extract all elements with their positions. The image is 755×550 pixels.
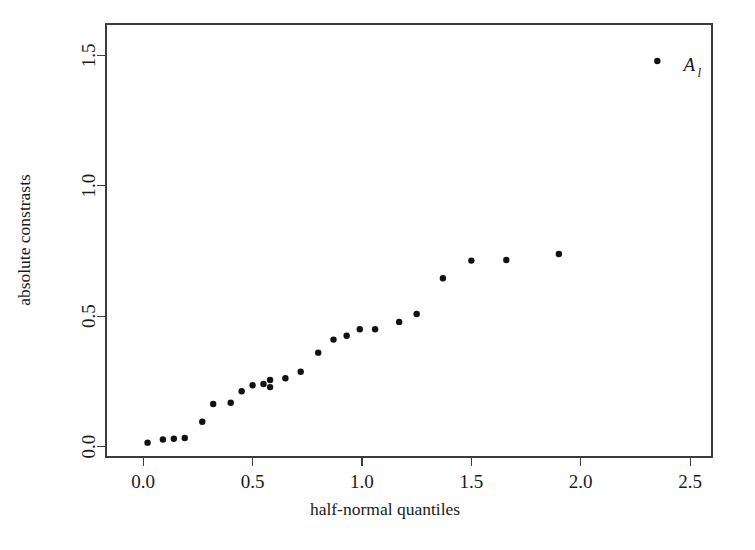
data-point — [343, 333, 349, 339]
x-tick-label: 0.0 — [131, 471, 155, 492]
plot-frame — [106, 24, 712, 457]
x-tick-label: 1.5 — [459, 471, 483, 492]
data-point — [357, 326, 363, 332]
data-point — [144, 439, 150, 445]
data-point — [160, 436, 166, 442]
data-point — [267, 384, 273, 390]
data-point — [298, 369, 304, 375]
data-point — [330, 336, 336, 342]
y-tick-label: 0.0 — [78, 435, 99, 459]
data-point — [282, 375, 288, 381]
y-axis-title: absolute constrasts — [14, 174, 34, 306]
data-point — [372, 326, 378, 332]
outlier-label-subscript: l — [698, 65, 702, 80]
x-axis-title: half-normal quantiles — [310, 499, 460, 519]
data-point — [413, 311, 419, 317]
plot-border-rect — [106, 24, 712, 457]
data-point — [238, 388, 244, 394]
x-axis-ticks: 0.00.51.01.52.02.5 — [131, 457, 702, 492]
x-tick-label: 2.0 — [569, 471, 593, 492]
data-point — [503, 257, 509, 263]
data-point — [210, 401, 216, 407]
annotation-layer: A l — [682, 54, 702, 80]
data-point — [654, 58, 660, 64]
data-point — [228, 400, 234, 406]
data-point — [468, 257, 474, 263]
data-points-layer — [144, 58, 660, 446]
outlier-label-a: A — [682, 54, 696, 75]
y-axis-ticks: 0.00.51.01.5 — [78, 43, 106, 458]
data-point — [267, 377, 273, 383]
data-point — [171, 436, 177, 442]
x-tick-label: 0.5 — [241, 471, 265, 492]
y-tick-label: 1.5 — [78, 43, 99, 67]
half-normal-plot-figure: 0.00.51.01.52.02.5 0.00.51.01.5 A l half… — [0, 0, 755, 550]
x-tick-label: 2.5 — [678, 471, 702, 492]
data-point — [556, 251, 562, 257]
scatter-plot-canvas: 0.00.51.01.52.02.5 0.00.51.01.5 A l half… — [0, 0, 755, 550]
data-point — [315, 349, 321, 355]
data-point — [182, 435, 188, 441]
data-point — [260, 381, 266, 387]
data-point — [440, 275, 446, 281]
data-point — [199, 419, 205, 425]
data-point — [249, 382, 255, 388]
data-point — [396, 319, 402, 325]
y-tick-label: 1.0 — [78, 174, 99, 198]
y-tick-label: 0.5 — [78, 304, 99, 328]
x-tick-label: 1.0 — [350, 471, 374, 492]
